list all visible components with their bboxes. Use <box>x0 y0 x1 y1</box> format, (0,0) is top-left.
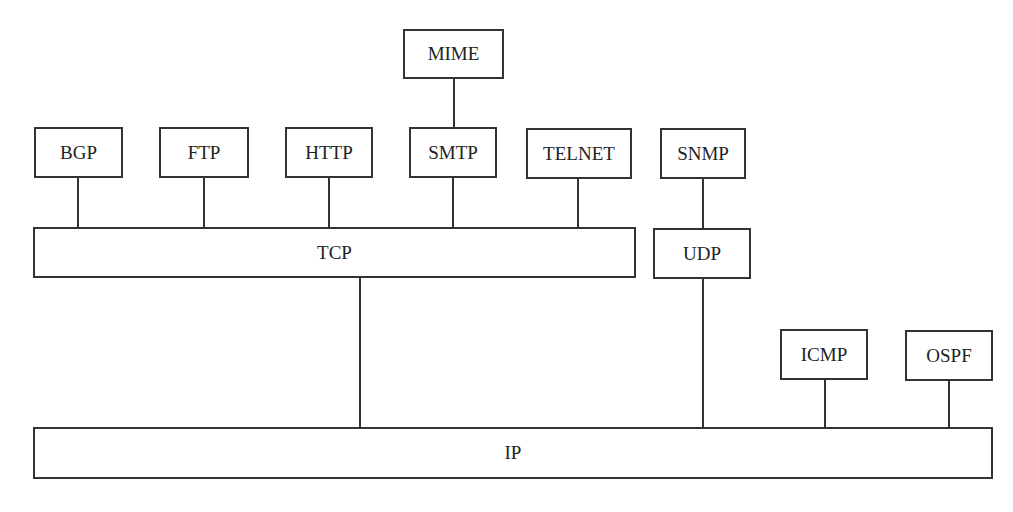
edge-http-tcp <box>328 177 330 228</box>
edge-mime-smtp <box>453 78 455 128</box>
node-mime: MIME <box>403 29 504 79</box>
node-telnet: TELNET <box>526 128 632 179</box>
edge-smtp-tcp <box>452 177 454 228</box>
edge-ospf-ip <box>948 378 950 429</box>
edge-icmp-ip <box>824 378 826 429</box>
edge-tcp-ip <box>359 276 361 428</box>
node-http: HTTP <box>285 127 373 178</box>
node-snmp: SNMP <box>660 128 746 179</box>
node-icmp: ICMP <box>780 329 868 380</box>
edge-telnet-tcp <box>577 177 579 228</box>
node-udp: UDP <box>653 228 751 279</box>
edge-ftp-tcp <box>203 177 205 228</box>
node-smtp: SMTP <box>409 127 497 178</box>
node-ospf: OSPF <box>905 330 993 381</box>
edge-bgp-tcp <box>77 177 79 228</box>
node-tcp: TCP <box>33 227 636 278</box>
edge-snmp-udp <box>702 177 704 229</box>
node-ftp: FTP <box>159 127 249 178</box>
edge-udp-ip <box>702 277 704 428</box>
node-ip: IP <box>33 427 993 479</box>
node-bgp: BGP <box>34 127 123 178</box>
